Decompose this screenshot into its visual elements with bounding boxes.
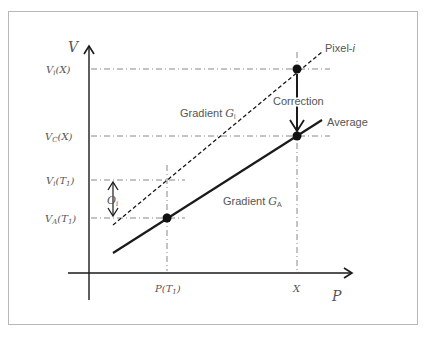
gradient-gi-label: Gradient Gi: [180, 107, 236, 120]
guide-lines: [91, 52, 330, 271]
average-label: Average: [327, 116, 368, 128]
point-average-at-t1: [163, 214, 172, 223]
offset-label: Oi: [107, 194, 118, 208]
pixel-i-label: Pixel-i: [325, 42, 356, 54]
tick-vi-x: Vi(X): [46, 64, 71, 77]
point-average-at-x: [293, 132, 302, 141]
tick-x: X: [292, 283, 301, 294]
tick-vi-t1: Vi(T1): [46, 175, 75, 188]
y-axis-label: V: [68, 39, 80, 55]
correction-label: Correction: [273, 95, 324, 107]
tick-va-t1: VA(T1): [45, 213, 76, 226]
average-line: [113, 120, 322, 253]
point-pixel-at-x: [293, 65, 302, 74]
tick-p-t1: P(T1): [154, 283, 181, 296]
x-axis-label: P: [331, 288, 342, 304]
tick-vc-x: VC(X): [45, 131, 73, 144]
gradient-ga-label: Gradient GA: [223, 195, 282, 208]
pixel-i-line: [113, 52, 322, 225]
gradient-correction-diagram: V P Vi(X) VC(X) Vi(T1) VA(T1) P(T1) X Pi…: [0, 0, 425, 337]
